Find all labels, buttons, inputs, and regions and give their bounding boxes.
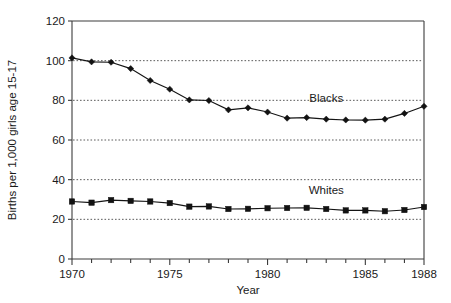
x-axis-tick-label: 1970 [59, 268, 85, 280]
data-point-marker [108, 197, 113, 202]
data-point-marker [382, 209, 387, 214]
y-axis-tick-label: 100 [46, 55, 65, 67]
data-point-marker [421, 204, 426, 209]
data-point-marker [324, 206, 329, 211]
data-point-marker [304, 205, 309, 210]
y-axis-tick-label: 120 [46, 15, 65, 27]
data-point-marker [265, 206, 270, 211]
chart-figure: 020406080100120 19701975198019851988 Bla… [0, 0, 451, 303]
data-point-marker [167, 200, 172, 205]
data-point-marker [245, 206, 250, 211]
y-axis-tick-label: 60 [52, 134, 65, 146]
y-axis-tick-label: 80 [52, 94, 65, 106]
data-point-marker [206, 204, 211, 209]
data-point-marker [69, 199, 74, 204]
data-point-marker [226, 206, 231, 211]
x-axis-tick-label: 1975 [157, 268, 183, 280]
data-point-marker [148, 199, 153, 204]
data-point-marker [284, 205, 289, 210]
x-axis-tick-label: 1980 [255, 268, 281, 280]
y-axis-ticks-group: 020406080100120 [46, 15, 72, 265]
y-axis-title: Births per 1,000 girls age 15-17 [6, 60, 18, 220]
data-point-marker [187, 204, 192, 209]
y-axis-tick-label: 40 [52, 174, 65, 186]
births-rate-line-chart: 020406080100120 19701975198019851988 Bla… [0, 0, 451, 303]
series-annotation-blacks: Blacks [309, 92, 343, 104]
x-axis-ticks-group [72, 259, 424, 265]
y-axis-tick-label: 0 [59, 253, 65, 265]
data-point-marker [363, 208, 368, 213]
data-point-marker [89, 200, 94, 205]
data-point-marker [402, 207, 407, 212]
x-axis-tick-labels-group: 19701975198019851988 [59, 268, 437, 280]
x-axis-title: Year [236, 284, 259, 296]
y-axis-tick-label: 20 [52, 213, 65, 225]
x-axis-tick-label: 1988 [411, 268, 437, 280]
data-point-marker [128, 198, 133, 203]
x-axis-tick-label: 1985 [353, 268, 379, 280]
series-annotation-whites: Whites [309, 184, 344, 196]
data-point-marker [343, 208, 348, 213]
